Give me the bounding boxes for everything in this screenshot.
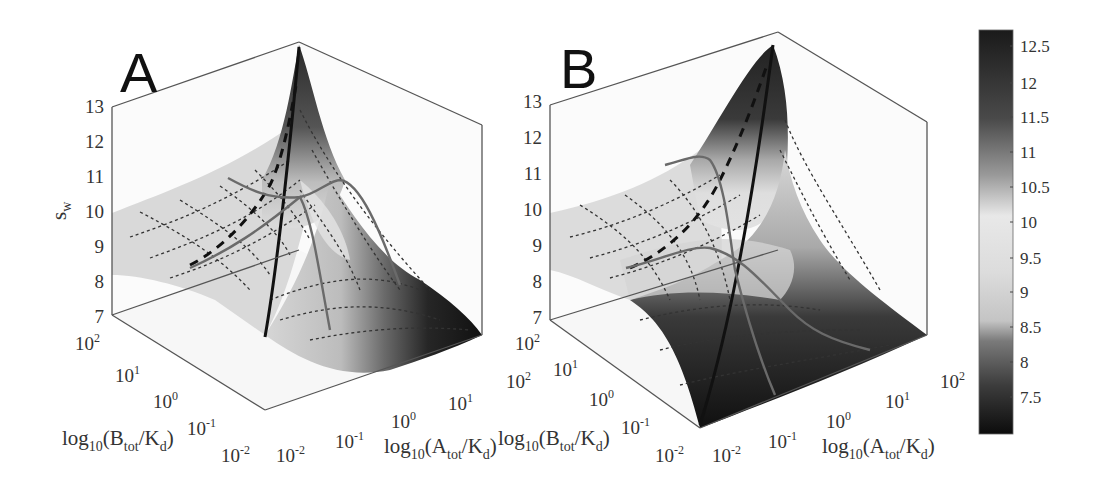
svg-text:7: 7	[533, 307, 543, 328]
svg-text:8: 8	[95, 271, 105, 292]
panel-b: B 13 12 11 10 9 8 7 102 101 100 10-1 10-…	[498, 32, 965, 466]
svg-text:100: 100	[153, 389, 178, 412]
svg-text:12: 12	[85, 131, 104, 152]
svg-text:102: 102	[75, 331, 100, 354]
colorbar: 12.5 12 11.5 11 10.5 10 9.5 9 8.5 8 7.5	[979, 30, 1050, 434]
panel-a-letter: A	[120, 41, 158, 104]
svg-text:10: 10	[523, 199, 542, 220]
svg-text:10-2: 10-2	[712, 443, 741, 466]
svg-text:9: 9	[533, 235, 543, 256]
svg-text:11: 11	[86, 166, 104, 187]
svg-text:101: 101	[448, 391, 473, 414]
svg-text:8: 8	[1020, 353, 1029, 372]
panel-a: A 13 12 11 10 9 8 7 sw 102 101 100 10-1 …	[47, 41, 531, 466]
panel-b-b-label: log10(Btot/Kd)	[498, 426, 610, 454]
svg-text:11.5: 11.5	[1020, 108, 1049, 127]
svg-text:13: 13	[523, 91, 542, 112]
panel-b-letter: B	[560, 37, 597, 100]
svg-text:13: 13	[85, 96, 104, 117]
svg-text:12: 12	[1020, 74, 1037, 93]
svg-text:100: 100	[391, 409, 416, 432]
svg-text:10-2: 10-2	[221, 443, 250, 466]
svg-text:101: 101	[885, 389, 910, 412]
svg-text:102: 102	[940, 369, 965, 392]
svg-text:8.5: 8.5	[1020, 318, 1041, 337]
svg-text:10-2: 10-2	[655, 443, 684, 466]
colorbar-labels: 12.5 12 11.5 11 10.5 10 9.5 9 8.5 8 7.5	[1020, 37, 1050, 407]
svg-text:102: 102	[515, 331, 540, 354]
panel-a-z-label: sw	[47, 201, 74, 220]
svg-text:100: 100	[589, 387, 614, 410]
svg-text:9.5: 9.5	[1020, 249, 1041, 268]
svg-text:101: 101	[115, 363, 140, 386]
svg-text:10-1: 10-1	[335, 429, 364, 452]
panel-b-z-ticks: 13 12 11 10 9 8 7	[523, 91, 542, 328]
svg-text:101: 101	[553, 357, 578, 380]
svg-text:11: 11	[1020, 143, 1036, 162]
svg-text:102: 102	[506, 369, 531, 392]
svg-text:10-1: 10-1	[621, 415, 650, 438]
svg-text:8: 8	[533, 271, 543, 292]
svg-text:10-1: 10-1	[187, 416, 216, 439]
panel-a-z-ticks: 13 12 11 10 9 8 7	[85, 96, 104, 327]
svg-text:10.5: 10.5	[1020, 178, 1050, 197]
svg-text:10: 10	[85, 201, 104, 222]
svg-text:7.5: 7.5	[1020, 388, 1041, 407]
panel-a-a-label: log10(Atot/Kd)	[384, 434, 497, 462]
svg-text:10-1: 10-1	[768, 429, 797, 452]
svg-text:9: 9	[95, 236, 105, 257]
figure: A 13 12 11 10 9 8 7 sw 102 101 100 10-1 …	[0, 0, 1100, 495]
panel-a-b-label: log10(Btot/Kd)	[62, 426, 174, 454]
svg-text:10-2: 10-2	[276, 443, 305, 466]
svg-text:100: 100	[826, 409, 851, 432]
svg-text:12: 12	[523, 127, 542, 148]
svg-text:10: 10	[1020, 213, 1037, 232]
svg-text:11: 11	[524, 163, 542, 184]
svg-text:9: 9	[1020, 283, 1029, 302]
svg-text:12.5: 12.5	[1020, 37, 1050, 56]
svg-text:7: 7	[95, 306, 105, 327]
colorbar-gradient	[979, 30, 1013, 434]
panel-b-a-label: log10(Atot/Kd)	[822, 434, 935, 462]
